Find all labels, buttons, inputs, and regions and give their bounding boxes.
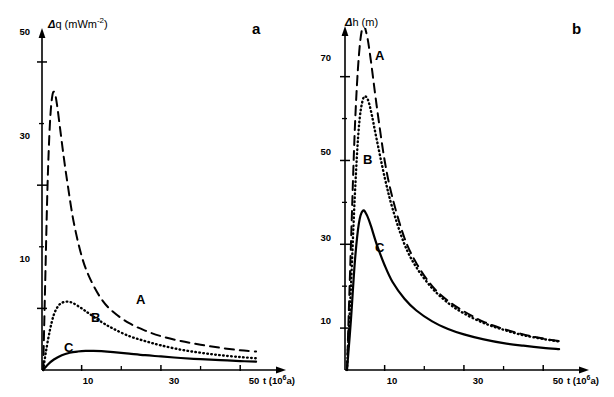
panel-b-plot [307,0,614,397]
figure-container: a Δq (mWm-2) 50 30 10 10 30 50 t (106a) … [0,0,614,397]
panel-a-plot [0,0,307,397]
panel-a: a Δq (mWm-2) 50 30 10 10 30 50 t (106a) … [0,0,307,397]
panel-b: b Δh (m) 70 50 30 10 10 30 50 t (106a) A… [307,0,614,397]
